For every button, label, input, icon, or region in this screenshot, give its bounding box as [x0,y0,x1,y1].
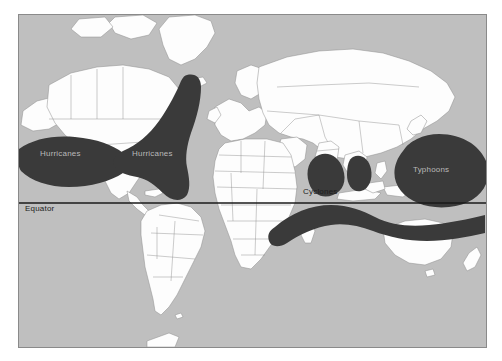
tropical-cyclone-world-map: Hurricanes Hurricanes Cyclones Typhoons … [0,0,502,361]
world-map-graphic [19,15,486,347]
zone-northwest-pacific-typhoons [394,134,486,207]
map-frame: Hurricanes Hurricanes Cyclones Typhoons … [18,14,487,348]
